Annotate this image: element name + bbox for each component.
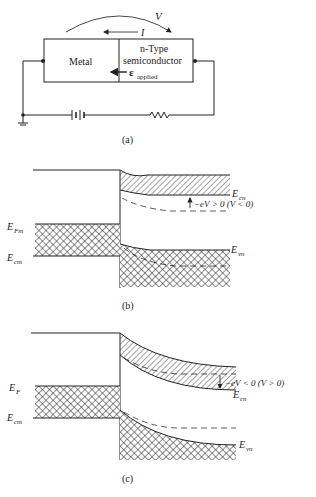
metal-label: Metal (69, 56, 93, 67)
caption-c: (c) (122, 473, 133, 485)
resistor-icon (150, 112, 169, 118)
caption-a: (a) (122, 134, 133, 146)
caption-b: (b) (122, 300, 134, 312)
svg-text:E: E (6, 412, 13, 423)
svg-text:E: E (8, 382, 15, 393)
svg-text:E: E (238, 439, 245, 450)
svg-text:cn: cn (240, 395, 247, 403)
svg-text:E: E (6, 252, 13, 263)
figure: V I Metal n-Type semiconductor ε applied… (0, 0, 316, 497)
semi-label-2: semiconductor (123, 55, 183, 66)
svg-text:E: E (231, 188, 238, 199)
bias-label-b: −eV > 0 (V < 0) (194, 199, 253, 209)
semi-label-1: n-Type (140, 43, 169, 54)
field-sub: applied (137, 73, 158, 81)
panel-a-circuit: V I Metal n-Type semiconductor ε applied… (18, 10, 214, 146)
panel-b-band-diagram: E cn −eV > 0 (V < 0) E Fm E cm E vn (b) (6, 170, 253, 312)
svg-text:F: F (15, 388, 21, 396)
svg-text:E: E (232, 389, 239, 400)
svg-text:cm: cm (14, 418, 22, 426)
svg-text:vn: vn (238, 250, 245, 258)
panel-c-band-diagram: −eV < 0 (V > 0) E cn E F E cm E vn (c) (6, 333, 284, 485)
current-label: I (140, 27, 145, 38)
svg-text:Fm: Fm (13, 227, 23, 235)
bias-label-c: −eV < 0 (V > 0) (225, 378, 284, 388)
svg-text:cm: cm (14, 258, 22, 266)
svg-text:E: E (6, 221, 13, 232)
field-symbol: ε (129, 66, 134, 78)
voltage-label: V (155, 10, 163, 22)
svg-text:vn: vn (246, 445, 253, 453)
svg-text:E: E (230, 244, 237, 255)
